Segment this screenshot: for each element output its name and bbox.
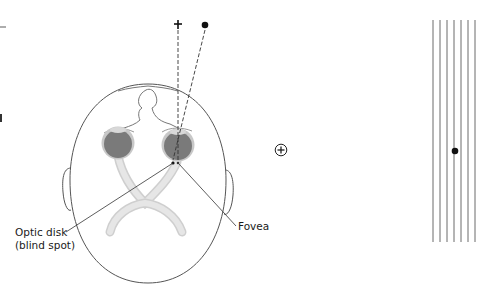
optic-disk-label-line2: (blind spot) bbox=[15, 239, 75, 252]
fovea-point bbox=[177, 162, 180, 165]
left-eyeball bbox=[102, 127, 135, 160]
fovea-label: Fovea bbox=[238, 220, 269, 233]
grating-dot-icon bbox=[452, 148, 459, 155]
optic-disk-label-line1: Optic disk bbox=[15, 226, 75, 239]
blind-spot-diagram: Optic disk (blind spot) Fovea bbox=[0, 0, 495, 290]
target-dot-icon bbox=[202, 22, 209, 29]
vertical-grating bbox=[433, 20, 475, 242]
optic-pathway bbox=[110, 156, 182, 232]
cropped-edge-fragments bbox=[0, 27, 6, 122]
head-outline bbox=[63, 84, 234, 283]
circled-plus-fixation-icon bbox=[275, 144, 287, 156]
optic-disk-label: Optic disk (blind spot) bbox=[15, 226, 75, 252]
fovea-leader bbox=[179, 164, 236, 226]
fixation-cross-icon bbox=[174, 20, 182, 29]
